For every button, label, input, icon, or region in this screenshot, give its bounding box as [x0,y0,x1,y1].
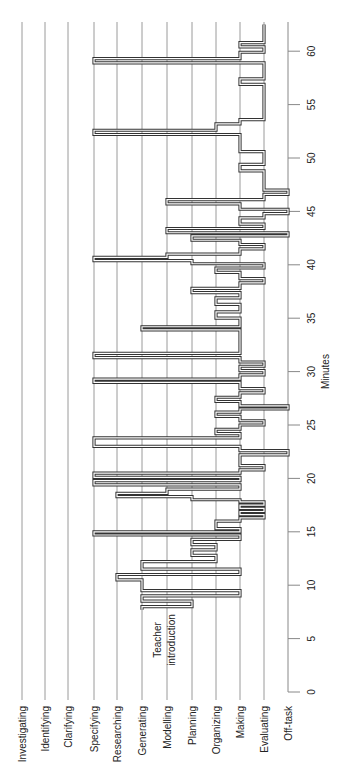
category-label: Organizing [211,706,222,754]
annotation-teacher: Teacher [152,622,163,658]
chart-canvas: 051015202530354045505560Minutes Investig… [0,0,348,775]
axis-tick-label: 30 [306,366,317,378]
category-label: Clarifying [63,706,74,748]
axis-tick-label: 60 [306,45,317,57]
category-label: Making [235,706,246,738]
trace-inner [94,25,288,610]
category-label: Generating [137,706,148,755]
axis-tick-label: 20 [306,472,317,484]
axis-tick-label: 50 [306,152,317,164]
category-label: Researching [112,706,123,762]
axis-tick-label: 55 [306,99,317,111]
axis-tick-label: 0 [306,689,317,695]
axis-tick-label: 40 [306,259,317,271]
axis-tick-label: 45 [306,205,317,217]
axis-tick-label: 5 [306,635,317,641]
axis-tick-label: 35 [306,312,317,324]
axis-tick-label: 25 [306,419,317,431]
annotations: Teacherintroduction [152,614,177,666]
category-label: Evaluating [259,706,270,753]
activity-timeline-chart: 051015202530354045505560Minutes Investig… [0,0,348,775]
minutes-axis: 051015202530354045505560Minutes [288,22,331,695]
axis-title: Minutes [320,354,331,389]
category-labels: InvestigatingIdentifyingClarifyingSpecif… [17,705,294,762]
category-label: Planning [187,706,198,745]
axis-tick-label: 15 [306,526,317,538]
axis-tick-label: 10 [306,579,317,591]
category-label: Investigating [17,706,28,762]
category-label: Specifying [89,706,100,752]
category-label: Modelling [162,706,173,749]
annotation-introduction: introduction [166,614,177,666]
activity-trace [94,25,288,610]
trace-outline [94,25,288,610]
category-label: Off-task [283,705,294,741]
category-label: Identifying [40,706,51,752]
